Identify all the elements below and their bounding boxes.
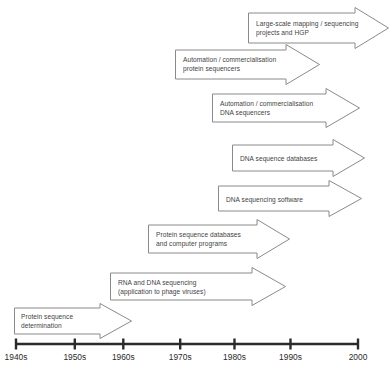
axis-tick-label: 1950s (63, 352, 86, 362)
axis-tick-label: 1940s (5, 352, 28, 362)
axis-tick-label: 2000 (349, 352, 368, 362)
axis-tick-label: 1960s (112, 352, 135, 362)
timeline-axis (0, 0, 389, 370)
axis-tick-label: 1990s (279, 352, 302, 362)
timeline-diagram: Large-scale mapping / sequencing project… (0, 0, 389, 370)
axis-tick-label: 1980s (223, 352, 246, 362)
axis-tick-label: 1970s (169, 352, 192, 362)
